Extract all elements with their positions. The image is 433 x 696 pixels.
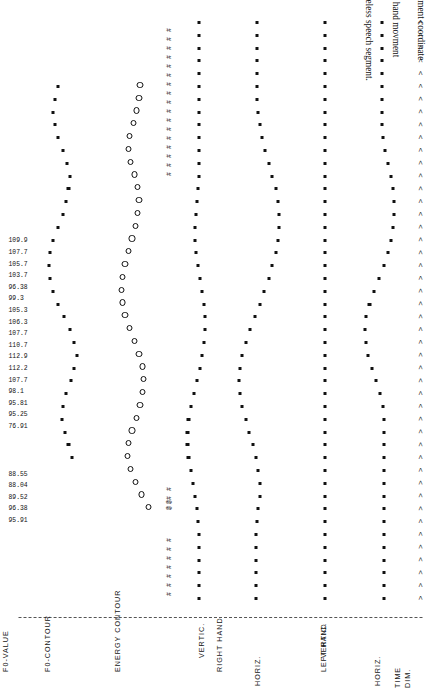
data-point <box>382 533 385 536</box>
data-point <box>203 315 206 318</box>
header-left-hand-horiz: HORIZ. <box>372 656 381 686</box>
data-point <box>367 303 370 306</box>
f0-value-readout: 112.2 <box>8 366 27 372</box>
data-point <box>323 239 326 242</box>
data-point <box>380 98 383 101</box>
silent-period-marker: # <box>166 55 173 59</box>
data-point <box>191 482 194 485</box>
data-point <box>382 482 385 485</box>
data-point <box>382 520 385 523</box>
data-point <box>202 303 205 306</box>
f0-value-readout: 103.7 <box>8 273 27 279</box>
data-point <box>323 200 326 203</box>
data-point <box>382 559 385 562</box>
data-point <box>323 443 326 446</box>
silent-period-marker: # <box>166 64 173 68</box>
data-point <box>186 418 189 421</box>
time-axis-tick: > <box>416 122 423 126</box>
data-point <box>383 149 386 152</box>
data-point <box>254 533 257 536</box>
data-point <box>237 379 240 382</box>
data-point <box>274 187 277 190</box>
data-point <box>377 277 380 280</box>
silent-period-marker: # <box>166 127 173 131</box>
data-point <box>323 85 326 88</box>
data-point <box>61 213 64 216</box>
data-point <box>256 469 259 472</box>
data-point <box>256 111 259 114</box>
data-point <box>277 226 280 229</box>
data-point <box>323 136 326 139</box>
data-point <box>382 597 385 600</box>
data-point <box>364 341 367 344</box>
data-point <box>323 290 326 293</box>
data-point <box>260 136 263 139</box>
data-point <box>138 491 144 497</box>
silent-period-marker: # <box>166 574 173 578</box>
data-point <box>323 226 326 229</box>
data-point <box>133 107 139 113</box>
data-point <box>48 277 51 280</box>
header-time-dim: DIM. <box>402 669 411 688</box>
data-point <box>238 392 241 395</box>
data-point <box>382 418 385 421</box>
data-point <box>323 405 326 408</box>
time-axis-tick: > <box>416 96 423 100</box>
data-point <box>277 213 280 216</box>
data-point <box>323 277 326 280</box>
data-point <box>121 312 127 318</box>
data-point <box>380 123 383 126</box>
time-axis-tick: > <box>416 532 423 536</box>
data-point <box>197 597 200 600</box>
time-axis-tick: > <box>416 314 423 318</box>
data-point <box>323 251 326 254</box>
silent-period-marker: # <box>166 109 173 113</box>
silent-period-marker: # <box>166 118 173 122</box>
data-point <box>323 315 326 318</box>
data-point <box>197 98 200 101</box>
data-point <box>240 354 243 357</box>
voiceless-segment-marker: @ <box>166 506 173 510</box>
data-point <box>66 443 69 446</box>
time-axis-tick: > <box>416 570 423 574</box>
time-axis-tick: > <box>416 327 423 331</box>
data-point <box>382 469 385 472</box>
data-point <box>132 223 138 229</box>
time-axis-tick: > <box>416 160 423 164</box>
data-point <box>323 354 326 357</box>
caption-line-1: Multichannel behavior plot of hand movem… <box>404 0 426 60</box>
data-point <box>126 325 132 331</box>
data-point <box>51 239 54 242</box>
data-point <box>258 482 261 485</box>
data-point <box>382 264 385 267</box>
data-point <box>189 405 192 408</box>
data-point <box>68 175 71 178</box>
data-point <box>194 213 197 216</box>
voiceless-segment-marker: @ <box>166 500 173 504</box>
data-point <box>255 98 258 101</box>
f0-value-readout: 98.1 <box>8 389 23 395</box>
data-point <box>130 120 136 126</box>
header-right-hand-horiz: HORIZ. <box>252 656 261 686</box>
data-point <box>186 456 189 459</box>
data-point <box>132 479 138 485</box>
silent-period-marker: # <box>166 91 173 95</box>
data-point <box>51 290 54 293</box>
silent-period-marker: # <box>166 538 173 542</box>
header-f0-contour: F0-CONTOUR <box>42 615 51 672</box>
time-axis-tick: > <box>416 173 423 177</box>
f0-value-readout: 88.55 <box>8 472 27 478</box>
data-point <box>72 341 75 344</box>
data-point <box>51 111 54 114</box>
data-point <box>193 495 196 498</box>
data-point <box>64 392 67 395</box>
time-axis-tick: > <box>416 583 423 587</box>
silent-period-marker: # <box>166 163 173 167</box>
data-point <box>323 34 326 37</box>
header-time: TIME <box>392 667 401 688</box>
data-point <box>139 363 145 369</box>
data-point <box>323 162 326 165</box>
data-point <box>323 597 326 600</box>
data-point <box>323 418 326 421</box>
data-point <box>133 415 139 421</box>
